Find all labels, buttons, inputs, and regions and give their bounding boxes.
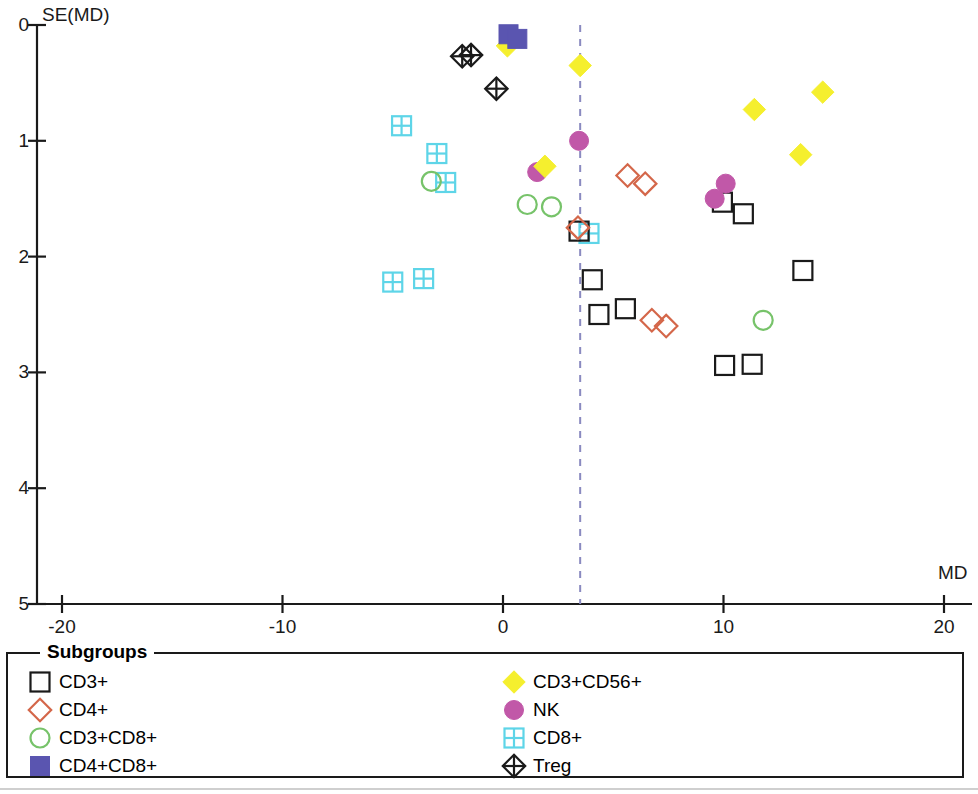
data-point xyxy=(743,355,762,374)
data-point xyxy=(542,197,561,216)
diamond-filled-icon xyxy=(743,98,765,120)
diamond-open-icon xyxy=(29,698,51,720)
y-tick-label: 3 xyxy=(18,361,35,383)
data-point xyxy=(793,261,812,280)
diamond-filled-icon xyxy=(503,670,525,692)
legend-item[interactable]: NK xyxy=(500,696,642,723)
square-open-icon xyxy=(743,355,762,374)
data-point xyxy=(508,29,527,48)
legend-item[interactable]: Treg xyxy=(500,752,642,779)
data-point xyxy=(716,174,735,193)
data-point xyxy=(583,270,602,289)
data-point xyxy=(569,54,591,76)
series-cd3pluscd56plus xyxy=(496,35,834,178)
legend-column-left: CD3+CD4+CD3+CD8+CD4+CD8+ xyxy=(26,668,157,780)
y-axis-title: SE(MD) xyxy=(42,4,110,26)
square-open-glyph xyxy=(31,672,50,691)
data-point xyxy=(743,98,765,120)
data-point xyxy=(485,77,507,99)
legend-item[interactable]: CD4+CD8+ xyxy=(26,752,157,779)
square-filled-glyph xyxy=(31,756,50,775)
square-filled-icon xyxy=(26,753,54,779)
diamond-open-icon xyxy=(26,697,54,723)
square-grid-icon xyxy=(500,725,528,751)
circle-open-icon xyxy=(422,172,441,191)
square-filled-icon xyxy=(31,756,50,775)
square-filled-icon xyxy=(508,29,527,48)
circle-filled-icon xyxy=(500,697,528,723)
y-tick-label: 1 xyxy=(18,130,35,152)
diamond-filled-glyph xyxy=(503,670,525,692)
diamond-cross-glyph xyxy=(503,754,525,776)
data-point xyxy=(734,204,753,223)
series-cd4plus xyxy=(567,164,678,337)
legend-swatch xyxy=(26,725,54,751)
data-point xyxy=(422,172,441,191)
data-point xyxy=(589,305,608,324)
y-tick-label: 4 xyxy=(18,477,35,499)
square-open-icon xyxy=(31,672,50,691)
square-open-icon xyxy=(583,270,602,289)
plot-canvas xyxy=(0,0,978,640)
funnel-plot: SE(MD) MD 012345-20-1001020 xyxy=(0,0,978,640)
series-nk xyxy=(528,131,736,208)
data-point xyxy=(518,195,537,214)
diamond-filled-icon xyxy=(500,669,528,695)
x-tick-label: -10 xyxy=(269,616,296,638)
square-open-icon xyxy=(589,305,608,324)
legend-title: Subgroups xyxy=(40,642,154,662)
x-axis-title: MD xyxy=(938,562,968,584)
legend-item-label: CD8+ xyxy=(533,727,582,749)
legend-item-label: Treg xyxy=(533,755,571,777)
square-open-icon xyxy=(26,669,54,695)
diamond-filled-icon xyxy=(569,54,591,76)
circle-filled-icon xyxy=(716,174,735,193)
x-tick-label: 20 xyxy=(933,616,954,638)
square-open-icon xyxy=(793,261,812,280)
data-point xyxy=(754,311,773,330)
x-tick-label: 10 xyxy=(713,616,734,638)
legend-item-label: CD3+CD56+ xyxy=(533,671,642,693)
data-point xyxy=(392,116,411,135)
circle-filled-glyph xyxy=(505,700,524,719)
data-point xyxy=(715,356,734,375)
legend-swatch xyxy=(500,725,528,751)
square-open-icon xyxy=(715,356,734,375)
legend-item[interactable]: CD8+ xyxy=(500,724,642,751)
data-point xyxy=(414,269,433,288)
diamond-filled-icon xyxy=(812,81,834,103)
legend-column-right: CD3+CD56+NKCD8+Treg xyxy=(500,668,642,780)
square-open-icon xyxy=(734,204,753,223)
square-open-icon xyxy=(616,299,635,318)
y-tick-label: 2 xyxy=(18,246,35,268)
legend-item-label: CD4+ xyxy=(59,699,108,721)
circle-open-icon xyxy=(754,311,773,330)
legend-item[interactable]: CD3+CD56+ xyxy=(500,668,642,695)
legend-swatch xyxy=(26,753,54,779)
legend-item-label: NK xyxy=(533,699,559,721)
data-point xyxy=(616,299,635,318)
legend-item-label: CD3+ xyxy=(59,671,108,693)
data-point xyxy=(383,273,402,292)
data-point xyxy=(570,131,589,150)
legend-item[interactable]: CD3+ xyxy=(26,668,157,695)
legend-item-label: CD3+CD8+ xyxy=(59,727,157,749)
legend-swatch xyxy=(500,669,528,695)
circle-open-icon xyxy=(542,197,561,216)
legend-item[interactable]: CD3+CD8+ xyxy=(26,724,157,751)
legend-swatch xyxy=(500,697,528,723)
series-cd3plus xyxy=(570,193,813,375)
data-point xyxy=(427,144,446,163)
series-treg xyxy=(451,44,508,100)
x-tick-label: -20 xyxy=(48,616,75,638)
bottom-divider xyxy=(0,788,978,790)
legend-swatch xyxy=(26,697,54,723)
circle-open-icon xyxy=(518,195,537,214)
legend-box: Subgroups CD3+CD4+CD3+CD8+CD4+CD8+ CD3+C… xyxy=(6,652,964,778)
series-cd8plus xyxy=(383,116,598,291)
y-tick-label: 5 xyxy=(18,593,35,615)
legend-item-label: CD4+CD8+ xyxy=(59,755,157,777)
legend-item[interactable]: CD4+ xyxy=(26,696,157,723)
circle-open-icon xyxy=(26,725,54,751)
circle-filled-icon xyxy=(570,131,589,150)
